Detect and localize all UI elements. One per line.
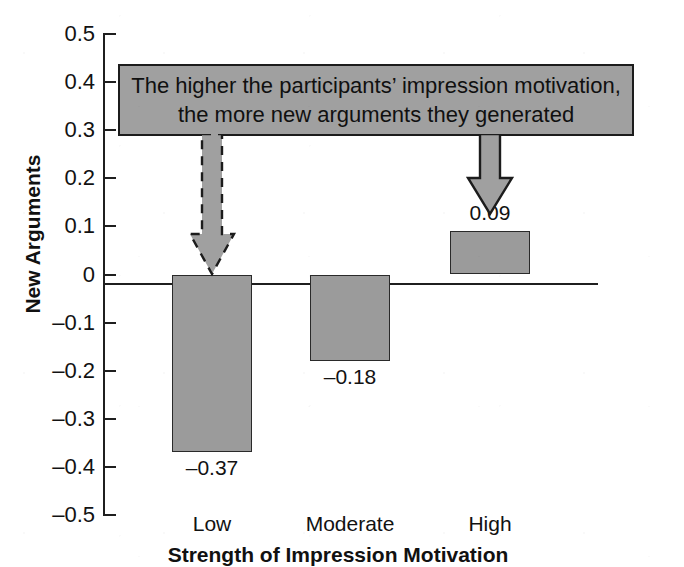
y-tick-label: 0 xyxy=(39,264,95,286)
y-tick-mark xyxy=(103,514,116,516)
bar-value-moderate: –0.18 xyxy=(290,365,410,389)
y-tick-mark xyxy=(103,225,116,227)
x-axis-title: Strength of Impression Motivation xyxy=(103,543,573,567)
y-tick-mark xyxy=(103,129,116,131)
bar-value-low: –0.37 xyxy=(152,456,272,480)
y-tick-label: –0.4 xyxy=(39,456,95,478)
y-tick-mark xyxy=(103,466,116,468)
dashed-down-arrow-icon xyxy=(186,134,238,282)
solid-down-arrow-icon xyxy=(464,134,516,218)
category-label-moderate: Moderate xyxy=(290,512,410,536)
y-tick-label: –0.5 xyxy=(39,504,95,526)
y-tick-label: 0.1 xyxy=(39,215,95,237)
y-tick-label: 0.2 xyxy=(39,167,95,189)
category-label-low: Low xyxy=(152,512,272,536)
y-tick-mark xyxy=(103,322,116,324)
y-tick-mark xyxy=(103,177,116,179)
y-tick-mark xyxy=(103,370,116,372)
annotation-callout-box: The higher the participants’ impression … xyxy=(118,64,634,136)
bar-low[interactable] xyxy=(172,275,252,453)
category-label-high: High xyxy=(430,512,550,536)
annotation-line-1: The higher the participants’ impression … xyxy=(131,71,621,100)
y-tick-mark xyxy=(103,274,116,276)
bar-high[interactable] xyxy=(450,231,530,274)
y-tick-label: –0.1 xyxy=(39,312,95,334)
y-tick-label: –0.3 xyxy=(39,408,95,430)
y-tick-mark xyxy=(103,418,116,420)
y-tick-label: 0.4 xyxy=(39,71,95,93)
annotation-line-2: the more new arguments they generated xyxy=(178,100,574,129)
y-tick-mark xyxy=(103,81,116,83)
y-tick-label: 0.3 xyxy=(39,119,95,141)
y-tick-mark xyxy=(103,33,116,35)
bar-moderate[interactable] xyxy=(310,275,390,362)
y-tick-label: –0.2 xyxy=(39,360,95,382)
y-tick-label: 0.5 xyxy=(39,23,95,45)
